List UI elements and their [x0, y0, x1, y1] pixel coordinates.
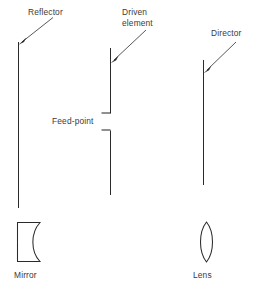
- driven-element-arrow-icon: [111, 56, 119, 63]
- feed-point-label: Feed-point: [52, 116, 94, 126]
- driven-element-label-line2: element: [122, 18, 153, 28]
- reflector-group: [19, 18, 54, 209]
- lens-group: [201, 222, 213, 262]
- antenna-diagram: Reflector Driven element Feed-point Dire…: [0, 0, 264, 289]
- reflector-leader-line: [22, 18, 53, 43]
- driven-element-group: [102, 30, 147, 195]
- mirror-label: Mirror: [14, 270, 37, 280]
- mirror-shape-icon: [18, 223, 41, 262]
- reflector-label: Reflector: [28, 7, 63, 17]
- director-leader-line: [207, 42, 236, 70]
- lens-label: Lens: [193, 270, 212, 280]
- director-label: Director: [211, 28, 242, 38]
- yagi-antenna-figure: Reflector Driven element Feed-point Dire…: [0, 0, 264, 289]
- mirror-group: [18, 223, 41, 262]
- driven-element-label-line1: Driven: [122, 7, 147, 17]
- driven-element-leader-line: [114, 30, 146, 60]
- lens-shape-icon: [201, 222, 213, 262]
- director-arrow-icon: [204, 66, 212, 73]
- director-group: [204, 42, 237, 185]
